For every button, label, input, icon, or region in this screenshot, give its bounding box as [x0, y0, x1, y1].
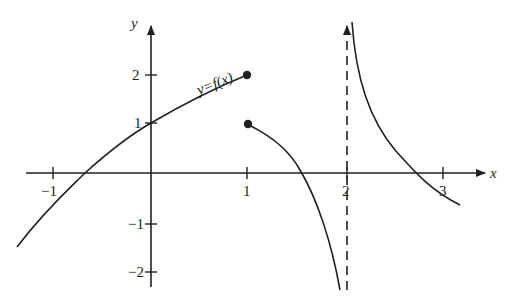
- curve-label: y=f(x): [192, 69, 235, 100]
- closed-point-1-2: [243, 71, 251, 79]
- curve-branch-middle: [247, 124, 340, 290]
- y-tick-label: −2: [128, 264, 144, 280]
- y-tick-label: −1: [128, 216, 144, 232]
- function-graph: x y −1 1 2 3 2 1 −1 −2 y=f(x): [0, 0, 515, 303]
- closed-point-1-1: [244, 120, 252, 128]
- y-tick-label: 2: [132, 67, 140, 83]
- x-axis-label: x: [489, 165, 497, 181]
- x-tick-label: 1: [243, 183, 251, 199]
- x-tick-label: −1: [41, 183, 57, 199]
- y-axis-label: y: [129, 15, 138, 31]
- curve-branch-right: [352, 22, 460, 205]
- x-tick-label: 2: [342, 183, 350, 199]
